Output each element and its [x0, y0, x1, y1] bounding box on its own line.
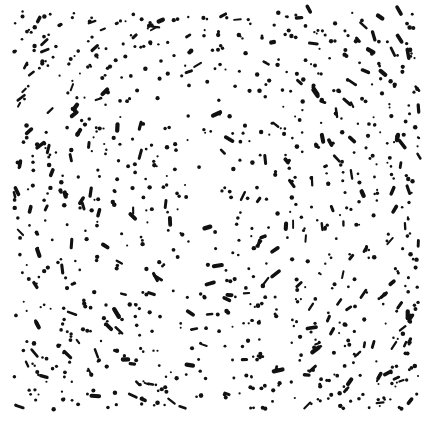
stipple-figure: Radial stipple dot field	[0, 0, 430, 426]
stipple-point-field-canvas	[0, 0, 430, 426]
